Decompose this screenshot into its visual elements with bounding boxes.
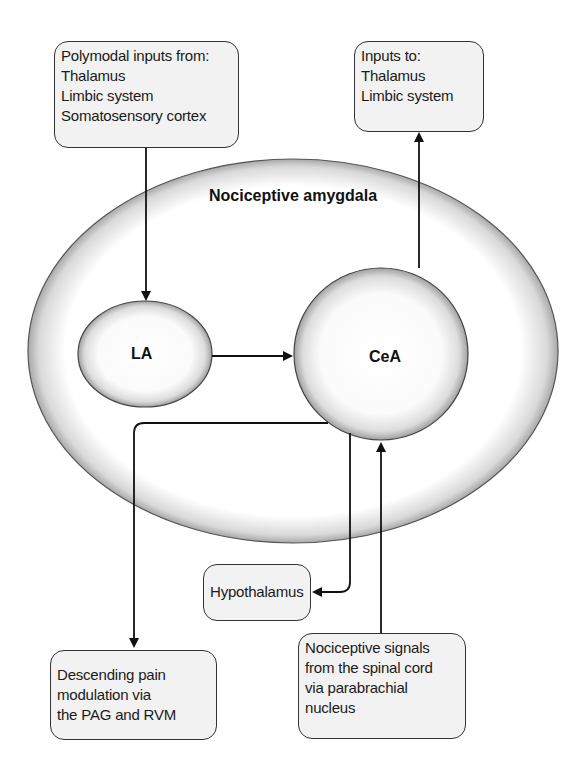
descending-line-1: Descending pain (57, 665, 210, 685)
descending-line-2: modulation via (57, 685, 210, 705)
polymodal-line-4: Somatosensory cortex (61, 106, 232, 126)
nociceptive-line-4: nucleus (305, 698, 459, 718)
polymodal-line-1: Polymodal inputs from: (61, 46, 232, 66)
nociceptive-line-3: via parabrachial (305, 678, 459, 698)
outputs-line-2: Thalamus (361, 66, 477, 86)
la-label: LA (131, 345, 152, 363)
outputs-box: Inputs to: Thalamus Limbic system (354, 41, 484, 132)
descending-line-3: the PAG and RVM (57, 705, 210, 725)
nociceptive-signals-box: Nociceptive signals from the spinal cord… (298, 633, 466, 739)
nociceptive-line-1: Nociceptive signals (305, 638, 459, 658)
hypothalamus-line-1: Hypothalamus (210, 582, 304, 602)
polymodal-line-3: Limbic system (61, 86, 232, 106)
polymodal-inputs-box: Polymodal inputs from: Thalamus Limbic s… (54, 41, 239, 148)
polymodal-line-2: Thalamus (61, 66, 232, 86)
amygdala-title: Nociceptive amygdala (209, 187, 377, 205)
cea-label: CeA (369, 348, 401, 366)
nociceptive-line-2: from the spinal cord (305, 658, 459, 678)
outputs-line-1: Inputs to: (361, 46, 477, 66)
hypothalamus-box: Hypothalamus (203, 564, 311, 621)
outputs-line-3: Limbic system (361, 86, 477, 106)
descending-box: Descending pain modulation via the PAG a… (50, 650, 217, 740)
